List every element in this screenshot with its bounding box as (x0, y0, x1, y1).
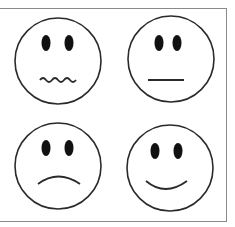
anxious-face-icon (15, 18, 101, 104)
sad-face-icon (15, 123, 101, 209)
happy-face-icon (127, 125, 213, 211)
faces-grid (0, 0, 235, 227)
neutral-face-icon (128, 16, 214, 102)
